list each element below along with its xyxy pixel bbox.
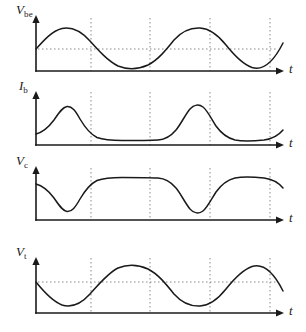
x-axis-arrow-icon <box>276 309 284 316</box>
y-axis-label-vbe-sub: be <box>24 9 33 19</box>
y-axis-arrow-icon <box>32 257 39 265</box>
y-axis-arrow-icon <box>32 91 39 99</box>
y-axis-label-ib: Ib <box>19 79 28 95</box>
y-axis-label-vc-sub: c <box>24 160 28 170</box>
waveform-svg <box>0 0 306 332</box>
curve-ib <box>36 105 283 141</box>
y-axis-label-vc: Vc <box>16 154 28 170</box>
y-axis-label-vt: Vt <box>16 245 27 261</box>
curve-vt <box>36 265 283 306</box>
y-axis-label-ib-sub: b <box>23 85 28 95</box>
y-axis-label-vt-var: V <box>16 244 24 259</box>
y-axis-label-vbe-var: V <box>16 2 24 17</box>
x-axis-arrow-icon <box>276 67 284 74</box>
panel-ib <box>32 91 284 149</box>
x-axis-label-vt: t <box>289 304 293 317</box>
panel-vc <box>32 166 284 224</box>
panel-vbe <box>32 15 284 75</box>
y-axis-label-vc-var: V <box>16 153 24 168</box>
x-axis-label-vc: t <box>289 211 293 224</box>
y-axis-label-vt-sub: t <box>24 251 27 261</box>
curve-vc <box>36 177 283 213</box>
y-axis-arrow-icon <box>32 166 39 174</box>
x-axis-arrow-icon <box>276 216 284 223</box>
x-axis-label-vbe: t <box>289 62 293 75</box>
waveform-figure: Vbe t Ib t Vc t Vt t <box>0 0 306 332</box>
y-axis-label-vbe: Vbe <box>16 3 33 19</box>
x-axis-label-ib: t <box>289 136 293 149</box>
curve-vbe <box>36 28 283 69</box>
y-axis-arrow-icon <box>32 15 39 23</box>
x-axis-arrow-icon <box>276 141 284 148</box>
panel-vt <box>32 257 284 317</box>
